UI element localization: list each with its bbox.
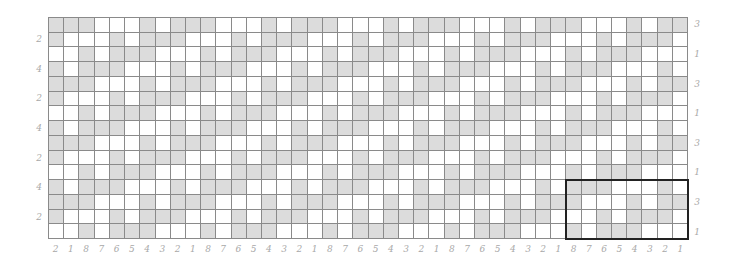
shaded-cell xyxy=(597,210,612,225)
empty-cell xyxy=(156,47,171,62)
shaded-cell xyxy=(171,210,186,225)
empty-cell xyxy=(308,151,323,166)
empty-cell xyxy=(414,224,429,239)
empty-cell xyxy=(277,77,292,92)
shaded-cell xyxy=(201,62,216,77)
empty-cell xyxy=(110,18,125,33)
shaded-cell xyxy=(79,121,94,136)
empty-cell xyxy=(201,33,216,48)
empty-cell xyxy=(277,165,292,180)
empty-cell xyxy=(582,106,597,121)
shaded-cell xyxy=(201,195,216,210)
shaded-cell xyxy=(658,180,673,195)
column-number-label: 7 xyxy=(216,244,230,254)
empty-cell xyxy=(49,106,64,121)
shaded-cell xyxy=(658,77,673,92)
empty-cell xyxy=(490,210,505,225)
shaded-cell xyxy=(521,92,536,107)
empty-cell xyxy=(171,47,186,62)
empty-cell xyxy=(658,224,673,239)
empty-cell xyxy=(308,121,323,136)
empty-cell xyxy=(551,47,566,62)
empty-cell xyxy=(566,151,581,166)
shaded-cell xyxy=(171,18,186,33)
empty-cell xyxy=(551,106,566,121)
shaded-cell xyxy=(277,33,292,48)
empty-cell xyxy=(460,18,475,33)
empty-cell xyxy=(125,92,140,107)
column-number-label: 6 xyxy=(353,244,367,254)
empty-cell xyxy=(429,180,444,195)
empty-cell xyxy=(95,18,110,33)
shaded-cell xyxy=(323,62,338,77)
shaded-cell xyxy=(505,136,520,151)
empty-cell xyxy=(247,151,262,166)
shaded-cell xyxy=(627,92,642,107)
shaded-cell xyxy=(384,47,399,62)
empty-cell xyxy=(323,33,338,48)
empty-cell xyxy=(308,210,323,225)
empty-cell xyxy=(536,224,551,239)
empty-cell xyxy=(445,92,460,107)
empty-cell xyxy=(156,224,171,239)
shaded-cell xyxy=(414,210,429,225)
empty-cell xyxy=(673,47,688,62)
shaded-cell xyxy=(323,195,338,210)
shaded-cell xyxy=(673,18,688,33)
empty-cell xyxy=(384,121,399,136)
empty-cell xyxy=(505,121,520,136)
empty-cell xyxy=(353,77,368,92)
empty-cell xyxy=(171,106,186,121)
empty-cell xyxy=(216,47,231,62)
shaded-cell xyxy=(414,121,429,136)
shaded-cell xyxy=(156,92,171,107)
shaded-cell xyxy=(627,77,642,92)
shaded-cell xyxy=(627,165,642,180)
empty-cell xyxy=(369,62,384,77)
empty-cell xyxy=(125,62,140,77)
empty-cell xyxy=(490,92,505,107)
row-number-label-left: 2 xyxy=(32,34,46,44)
column-number-label: 3 xyxy=(155,244,169,254)
shaded-cell xyxy=(79,165,94,180)
empty-cell xyxy=(308,165,323,180)
empty-cell xyxy=(64,165,79,180)
empty-cell xyxy=(156,136,171,151)
empty-cell xyxy=(582,136,597,151)
empty-cell xyxy=(551,121,566,136)
shaded-cell xyxy=(429,195,444,210)
empty-cell xyxy=(216,106,231,121)
row-number-label-left: 4 xyxy=(32,64,46,74)
shaded-cell xyxy=(627,47,642,62)
empty-cell xyxy=(171,165,186,180)
empty-cell xyxy=(79,210,94,225)
empty-cell xyxy=(460,33,475,48)
empty-cell xyxy=(369,121,384,136)
shaded-cell xyxy=(338,180,353,195)
empty-cell xyxy=(399,18,414,33)
empty-cell xyxy=(673,224,688,239)
empty-cell xyxy=(186,210,201,225)
shaded-cell xyxy=(384,151,399,166)
empty-cell xyxy=(308,224,323,239)
shaded-cell xyxy=(505,151,520,166)
column-number-label: 1 xyxy=(430,244,444,254)
empty-cell xyxy=(642,18,657,33)
empty-cell xyxy=(551,33,566,48)
empty-cell xyxy=(338,77,353,92)
empty-cell xyxy=(247,18,262,33)
shaded-cell xyxy=(445,180,460,195)
shaded-cell xyxy=(597,106,612,121)
shaded-cell xyxy=(658,18,673,33)
shaded-cell xyxy=(79,77,94,92)
empty-cell xyxy=(582,195,597,210)
shaded-cell xyxy=(79,136,94,151)
column-number-label: 8 xyxy=(201,244,215,254)
empty-cell xyxy=(49,47,64,62)
empty-cell xyxy=(490,151,505,166)
empty-cell xyxy=(216,18,231,33)
empty-cell xyxy=(64,121,79,136)
shaded-cell xyxy=(399,151,414,166)
empty-cell xyxy=(277,195,292,210)
empty-cell xyxy=(369,77,384,92)
